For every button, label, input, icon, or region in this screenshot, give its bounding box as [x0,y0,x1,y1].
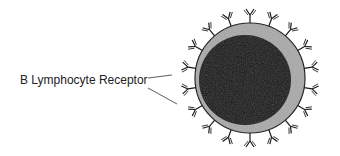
pointer-line-lower [148,88,177,104]
pointer-line-upper [148,75,172,78]
b-lymphocyte-cell-diagram [0,0,340,156]
